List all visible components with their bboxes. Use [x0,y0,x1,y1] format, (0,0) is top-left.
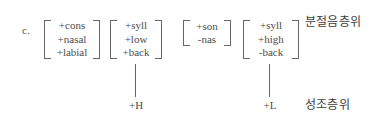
feature-row: +labial [44,46,100,60]
feature-row: +high [243,33,299,47]
tier-label-segmental: 분절음층위 [305,16,361,28]
tier-label-tonal: 성조층위 [305,99,350,111]
association-line-low [269,64,270,97]
feature-row: +cons [44,19,100,33]
feature-row: -nas [183,33,231,47]
feature-row: +nasal [44,33,100,47]
tone-high: +H [125,100,147,111]
autosegmental-diagram: c. +cons +nasal +labial +syll +low +back… [0,0,380,125]
feature-row: +son [183,20,231,34]
feature-row: +syll [243,19,299,33]
matrix-nasal-consonant: +cons +nasal +labial [44,20,100,59]
feature-row: +back [110,46,162,60]
feature-row: +low [110,33,162,47]
matrix-high-front-vowel: +syll +high -back [243,20,299,59]
feature-row: +syll [110,19,162,33]
association-line-high [135,64,136,97]
matrix-sonorant: +son -nas [183,20,231,46]
feature-row: -back [243,46,299,60]
tone-low: +L [259,100,281,111]
example-label: c. [22,25,30,36]
matrix-low-back-vowel: +syll +low +back [110,20,162,59]
